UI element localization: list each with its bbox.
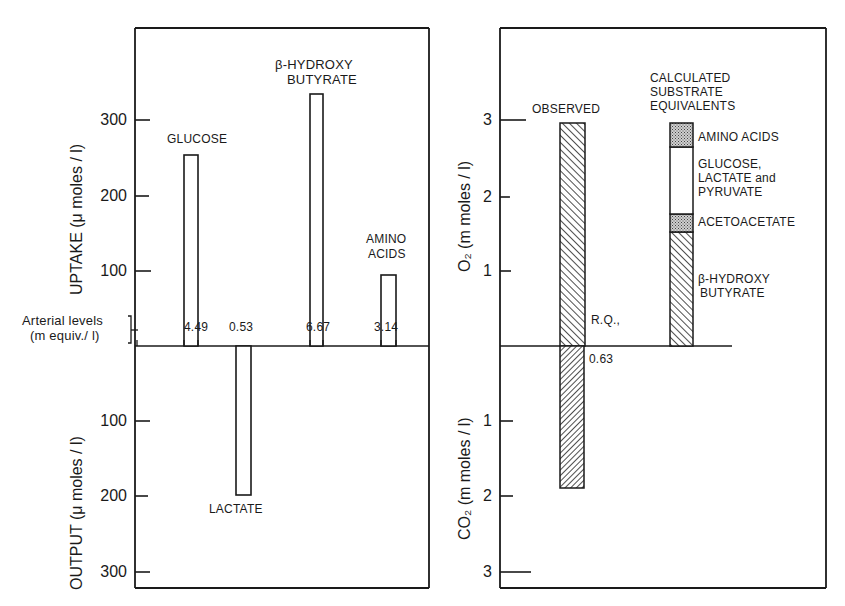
label-seg-amino: AMINO ACIDS [698, 130, 779, 144]
arterial-bhb: 6.67 [306, 320, 330, 334]
right-ytick-co2-3: 3 [452, 564, 492, 580]
left-ytick-out-100: 100 [87, 413, 127, 429]
arterial-amino: 3.14 [374, 320, 398, 334]
calculated-stacked-bar [670, 123, 693, 346]
right-ylabel-co2: CO₂ (m moles / l) [456, 417, 474, 540]
left-ylabel-output: OUTPUT (μ moles / l) [68, 436, 86, 590]
right-ytick-3: 3 [452, 112, 492, 128]
arterial-levels-label: Arterial levels [22, 314, 103, 328]
label-calculated-line2: SUBSTRATE [650, 85, 723, 99]
label-lactate: LACTATE [209, 502, 263, 516]
label-calculated-line1: CALCULATED [650, 71, 730, 85]
label-observed: OBSERVED [532, 102, 600, 116]
arterial-ticks [184, 340, 396, 346]
bar-observed-co2 [560, 346, 584, 488]
label-rq-value: 0.63 [589, 352, 613, 366]
label-seg-glucose-1: GLUCOSE, [698, 157, 762, 171]
label-seg-glucose-3: PYRUVATE [698, 185, 763, 199]
label-amino-line2: ACIDS [368, 247, 406, 261]
label-seg-bhb-1: β-HYDROXY [698, 272, 770, 286]
left-ytick-300: 300 [87, 112, 127, 128]
label-bhb-line2: BUTYRATE [287, 73, 357, 87]
left-ytick-out-300: 300 [87, 564, 127, 580]
arterial-bracket [128, 316, 138, 346]
arterial-glucose: 4.49 [184, 320, 208, 334]
label-seg-glucose-2: LACTATE and [698, 171, 776, 185]
segment-glucose-lactate-pyruvate [670, 147, 693, 214]
arterial-levels-unit: (m equiv./ l) [30, 329, 100, 343]
left-ylabel-uptake: UPTAKE (μ moles / l) [68, 144, 86, 295]
label-rq: R.Q., [591, 313, 620, 327]
label-seg-acetoacetate: ACETOACETATE [698, 215, 795, 229]
segment-bhb [670, 232, 693, 346]
bar-observed-o2 [560, 123, 585, 346]
arterial-lactate: 0.53 [229, 320, 253, 334]
left-bars [184, 94, 396, 495]
label-seg-bhb-2: BUTYRATE [700, 286, 765, 300]
left-ytick-200: 200 [87, 188, 127, 204]
left-ytick-100: 100 [87, 263, 127, 279]
bar-amino-acids [381, 275, 396, 346]
bar-lactate [236, 346, 251, 495]
label-glucose: GLUCOSE [167, 132, 227, 146]
left-ytick-out-200: 200 [87, 488, 127, 504]
segment-acetoacetate [670, 214, 693, 232]
segment-amino-acids [670, 123, 693, 147]
right-ylabel-o2: O₂ (m moles / l) [456, 161, 474, 272]
label-amino-line1: AMINO [366, 232, 406, 246]
bar-bhb [310, 94, 323, 346]
bar-glucose [184, 155, 198, 346]
label-bhb-line1: β-HYDROXY [275, 58, 353, 72]
observed-bars [560, 123, 585, 488]
label-calculated-line3: EQUIVALENTS [650, 99, 735, 113]
